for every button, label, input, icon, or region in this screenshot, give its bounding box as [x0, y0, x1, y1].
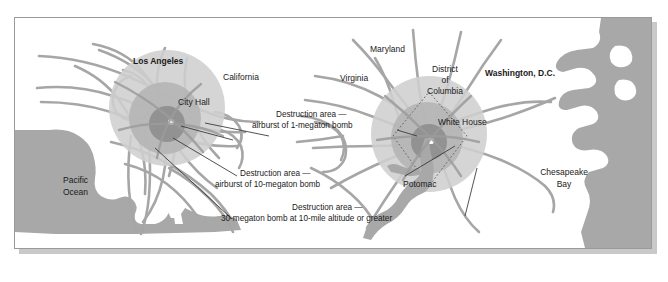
label-pacific-ocean-line1: Pacific — [63, 176, 88, 186]
road-dc-17 — [297, 136, 343, 142]
caption-30-megaton-line1: Destruction area — — [292, 203, 363, 212]
caption-30-megaton-line2: 30-megaton bomb at 10-mile altitude or g… — [221, 214, 392, 223]
label-maryland: Maryland — [370, 45, 405, 55]
label-pacific-ocean-line2: Ocean — [63, 188, 88, 198]
chesapeake-bay-shape — [556, 18, 651, 248]
label-city-hall: City Hall — [178, 98, 210, 108]
caption-10-megaton-line1: Destruction area — — [240, 169, 311, 178]
figure-root: Los Angeles California City Hall Pacific… — [0, 0, 668, 282]
label-district-of-columbia-line2: of — [418, 76, 472, 86]
label-chesapeake-bay-line1: Chesapeake — [527, 168, 601, 178]
label-district-of-columbia-line1: District — [418, 65, 472, 75]
label-california: California — [223, 73, 259, 83]
label-white-house: White House — [438, 118, 487, 128]
caption-1-megaton-line2: airburst of 1-megaton bomb — [252, 121, 353, 130]
caption-1-megaton-line1: Destruction area — — [276, 110, 347, 119]
road-la-14 — [221, 130, 243, 168]
label-potomac: Potomac — [403, 180, 437, 190]
caption-10-megaton-line2: airburst of 10-megaton bomb — [215, 180, 320, 189]
label-washington-dc: Washington, D.C. — [485, 69, 555, 79]
label-los-angeles: Los Angeles — [133, 57, 183, 67]
map-frame: Los Angeles California City Hall Pacific… — [14, 17, 652, 249]
label-virginia: Virginia — [340, 74, 368, 84]
label-chesapeake-bay-line2: Bay — [527, 180, 601, 190]
destruction-rings-los-angeles — [109, 50, 225, 166]
label-district-of-columbia-line3: Columbia — [413, 87, 477, 97]
